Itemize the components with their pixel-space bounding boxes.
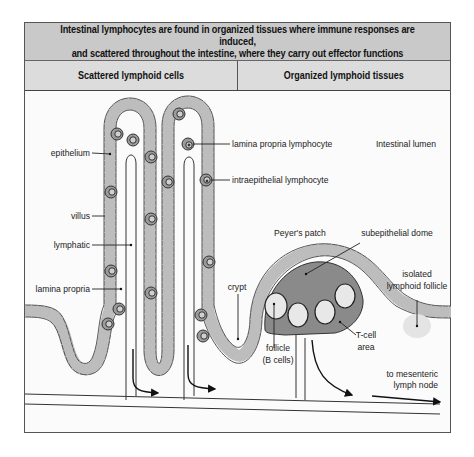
lymphocytes xyxy=(102,108,215,342)
label-isolated-follicle-2: lymphoid follicle xyxy=(387,281,448,291)
b-cell-follicle-4 xyxy=(335,284,355,308)
b-cell-follicle-3 xyxy=(315,300,335,324)
label-mesenteric-2: lymph node xyxy=(394,380,439,390)
label-follicle-2: (B cells) xyxy=(262,355,293,365)
b-cell-follicle-2 xyxy=(288,303,308,327)
label-lymphatic: lymphatic xyxy=(54,240,91,250)
label-follicle-1: follicle xyxy=(266,343,290,353)
intestine-diagram: Intestinal lumen epithelium villus lymph… xyxy=(0,0,474,457)
label-mesenteric-1: to mesenteric xyxy=(386,369,438,379)
label-tcell-2: area xyxy=(357,342,374,352)
label-crypt: crypt xyxy=(228,282,247,292)
label-intestinal-lumen: Intestinal lumen xyxy=(376,139,436,149)
label-peyers-patch: Peyer's patch xyxy=(274,228,326,238)
label-isolated-follicle-1: isolated xyxy=(402,269,432,279)
label-lamina-propria: lamina propria xyxy=(36,284,91,294)
b-cell-follicle-1 xyxy=(265,293,287,319)
label-subepithelial-dome: subepithelial dome xyxy=(361,228,433,238)
label-epithelium: epithelium xyxy=(51,148,90,158)
label-lamina-propria-lymphocyte: lamina propria lymphocyte xyxy=(232,139,333,149)
label-tcell-1: T-cell xyxy=(356,330,377,340)
label-villus: villus xyxy=(71,211,90,221)
label-intraepithelial-lymphocyte: intraepithelial lymphocyte xyxy=(232,175,329,185)
